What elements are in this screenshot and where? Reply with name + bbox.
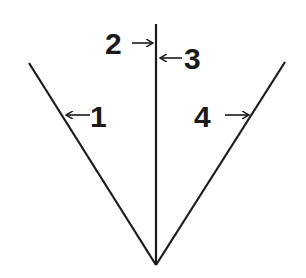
- diagram-canvas: 1 2 3 4: [0, 0, 306, 278]
- label-1: 1: [90, 100, 107, 133]
- left-line: [29, 63, 156, 265]
- label-2: 2: [105, 27, 122, 60]
- label-3: 3: [184, 42, 201, 75]
- line-diagram: 1 2 3 4: [0, 0, 306, 278]
- right-line: [156, 62, 285, 265]
- label-4: 4: [194, 100, 211, 133]
